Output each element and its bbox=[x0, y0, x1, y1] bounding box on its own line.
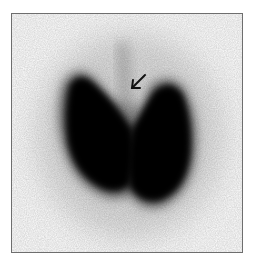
noise-texture bbox=[12, 14, 242, 252]
scan-frame bbox=[11, 13, 243, 253]
thyroid-scintigram bbox=[12, 14, 242, 252]
